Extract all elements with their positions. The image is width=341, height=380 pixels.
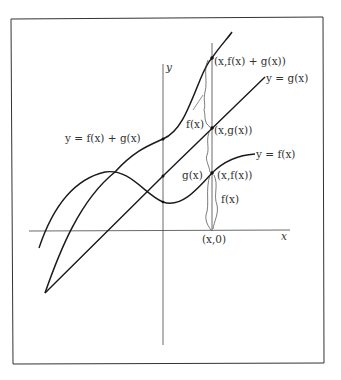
label-sum-curve: y = f(x) + g(x) — [65, 133, 141, 144]
function-addition-diagram — [0, 0, 341, 380]
label-brace-upper: f(x) — [186, 119, 204, 130]
point-f-yaxis — [162, 201, 165, 204]
y-axis-label: y — [166, 62, 172, 73]
label-f-point: (x,f(x)) — [217, 170, 252, 181]
point-g-yaxis — [162, 175, 165, 178]
label-x-point: (x,0) — [202, 234, 226, 245]
x-axis-label: x — [281, 231, 287, 242]
label-g-curve: y = g(x) — [266, 73, 308, 84]
brace-lower-fx-left — [206, 175, 211, 230]
x-axis — [29, 230, 290, 231]
point-f — [210, 171, 214, 175]
label-f-curve: y = f(x) — [256, 149, 295, 160]
curve-sum — [45, 32, 232, 293]
brace-middle-gx — [206, 130, 210, 172]
point-sum-yaxis — [162, 138, 165, 141]
label-brace-middle: g(x) — [182, 170, 203, 181]
label-brace-lower: f(x) — [221, 194, 239, 205]
brace-upper-leader — [193, 95, 203, 110]
brace-lower-fx — [213, 175, 217, 229]
label-sum-point: (x,f(x) + g(x)) — [214, 56, 286, 67]
label-g-point: (x,g(x)) — [214, 125, 252, 136]
